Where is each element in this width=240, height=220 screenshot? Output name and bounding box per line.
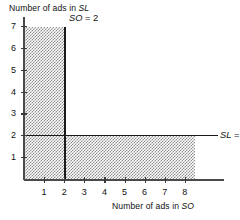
y-axis-title: Number of ads in SL	[9, 3, 89, 13]
y-tick-3: 3	[21, 113, 27, 114]
annotation-so-symbol: SO	[69, 13, 82, 23]
x-tick-label-7: 7	[162, 187, 167, 197]
x-tick-5: 5	[125, 177, 126, 183]
x-tick-label-3: 3	[82, 187, 87, 197]
annotation-sl-equals-2: SL = 2	[220, 130, 240, 140]
x-tick-2: 2	[64, 177, 65, 183]
best-response-line-sl	[24, 135, 218, 136]
y-tick-5: 5	[21, 70, 27, 71]
y-tick-label-2: 2	[11, 130, 16, 140]
y-tick-6: 6	[21, 48, 27, 49]
x-axis-title: Number of ads in SO	[112, 201, 194, 211]
x-tick-8: 8	[185, 177, 186, 183]
x-axis-title-symbol: SO	[182, 201, 195, 211]
annotation-so-equals-2: SO = 2	[69, 13, 98, 23]
x-tick-label-8: 8	[182, 187, 187, 197]
x-tick-label-1: 1	[42, 187, 47, 197]
annotation-sl-symbol: SL	[220, 130, 231, 140]
y-tick-label-7: 7	[11, 21, 16, 31]
y-axis-title-prefix: Number of ads in	[9, 3, 79, 13]
y-tick-4: 4	[21, 92, 27, 93]
x-tick-4: 4	[104, 177, 105, 183]
y-axis-line	[23, 17, 24, 180]
y-tick-7: 7	[21, 26, 27, 27]
x-tick-label-5: 5	[122, 187, 127, 197]
shaded-region-horizontal-strip	[24, 136, 195, 180]
y-tick-1: 1	[21, 157, 27, 158]
x-tick-6: 6	[145, 177, 146, 183]
x-tick-3: 3	[84, 177, 85, 183]
y-tick-2: 2	[21, 135, 27, 136]
annotation-sl-rest: = 2	[231, 130, 240, 140]
y-tick-label-3: 3	[11, 108, 16, 118]
plot-area: 1 2 3 4 5 6 7 1 2 3 4 5 6 7 8 SO = 2 SL …	[24, 17, 224, 180]
y-axis-title-symbol: SL	[79, 3, 90, 13]
chart-figure: Number of ads in SL Number of ads in SO …	[0, 0, 240, 220]
y-tick-label-6: 6	[11, 43, 16, 53]
x-tick-7: 7	[165, 177, 166, 183]
x-tick-1: 1	[44, 177, 45, 183]
annotation-so-rest: = 2	[82, 13, 98, 23]
y-tick-label-5: 5	[11, 65, 16, 75]
y-tick-label-4: 4	[11, 87, 16, 97]
y-tick-label-1: 1	[11, 152, 16, 162]
x-tick-label-6: 6	[142, 187, 147, 197]
x-axis-title-prefix: Number of ads in	[112, 201, 182, 211]
x-tick-label-2: 2	[62, 187, 67, 197]
x-tick-label-4: 4	[102, 187, 107, 197]
best-response-line-so	[64, 27, 65, 180]
